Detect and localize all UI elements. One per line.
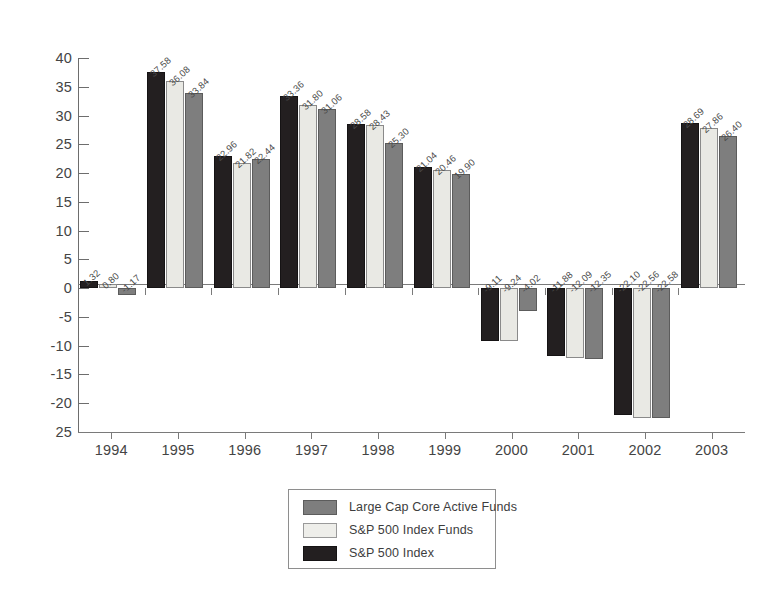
y-axis-tick-label: 25	[32, 425, 72, 440]
x-axis-tick-label: 2001	[543, 442, 613, 458]
zero-line-tick	[678, 288, 679, 295]
bar	[185, 93, 203, 288]
bar	[500, 288, 518, 341]
bar	[318, 109, 336, 288]
y-axis-tick-label: 40	[32, 51, 72, 66]
y-axis-tick	[78, 346, 89, 347]
zero-line-tick	[278, 288, 279, 295]
x-axis-tick-label: 1996	[210, 442, 280, 458]
y-axis-tick-label: 30	[32, 109, 72, 124]
bar	[633, 288, 651, 418]
zero-line-tick	[612, 288, 613, 295]
bar	[433, 170, 451, 288]
bar	[652, 288, 670, 418]
x-axis-tick	[178, 432, 179, 439]
x-axis-tick-label: 2002	[610, 442, 680, 458]
bar	[681, 123, 699, 288]
x-axis-tick-label: 2003	[677, 442, 747, 458]
y-axis-tick	[78, 231, 89, 232]
x-axis-tick	[111, 432, 112, 439]
bar-chart: 4035302520151050-5-10-15-2025 1.320.80-1…	[0, 0, 784, 616]
x-axis-tick-label: 1997	[276, 442, 346, 458]
y-axis-tick-label: 15	[32, 195, 72, 210]
bar	[547, 288, 565, 356]
y-axis-tick	[78, 173, 89, 174]
bar	[700, 128, 718, 288]
x-axis-tick	[712, 432, 713, 439]
y-axis-tick	[78, 374, 89, 375]
legend-swatch-icon-1	[303, 523, 337, 538]
x-axis-tick-label: 1994	[76, 442, 146, 458]
y-axis-tick-label: -10	[32, 339, 72, 354]
bar	[252, 159, 270, 288]
legend-label-1: S&P 500 Index Funds	[349, 522, 473, 539]
x-axis-tick	[445, 432, 446, 439]
zero-line-tick	[412, 288, 413, 295]
y-axis-line	[78, 58, 79, 432]
x-axis-tick-label: 1998	[343, 442, 413, 458]
bar	[233, 163, 251, 289]
bar	[585, 288, 603, 359]
bar	[414, 167, 432, 288]
bar	[347, 124, 365, 288]
y-axis-tick-label: -20	[32, 396, 72, 411]
bar	[481, 288, 499, 340]
y-axis-tick	[78, 116, 89, 117]
y-axis-tick	[78, 202, 89, 203]
y-axis-tick	[78, 144, 89, 145]
bar	[452, 174, 470, 289]
legend-label-0: Large Cap Core Active Funds	[349, 499, 517, 516]
x-axis-tick	[311, 432, 312, 439]
y-axis-tick-label: -5	[32, 310, 72, 325]
bar	[166, 81, 184, 289]
y-axis-tick	[78, 259, 89, 260]
zero-line-tick	[345, 288, 346, 295]
x-axis-tick-label: 1999	[410, 442, 480, 458]
x-axis-tick	[645, 432, 646, 439]
legend-label-2: S&P 500 Index	[349, 545, 434, 562]
x-axis-tick	[378, 432, 379, 439]
y-axis-tick-label: 20	[32, 166, 72, 181]
y-axis-tick	[78, 317, 89, 318]
zero-line-tick	[478, 288, 479, 295]
bar	[614, 288, 632, 415]
y-axis-tick-label: 5	[32, 252, 72, 267]
legend-swatch-icon-2	[303, 546, 337, 561]
zero-line-tick	[145, 288, 146, 295]
y-axis-tick-label: 0	[32, 281, 72, 296]
x-axis-tick	[578, 432, 579, 439]
bar	[566, 288, 584, 358]
y-axis-tick-label: 35	[32, 80, 72, 95]
y-axis-tick	[78, 58, 89, 59]
bar	[214, 156, 232, 288]
x-axis-tick	[245, 432, 246, 439]
y-axis-tick-label: -15	[32, 367, 72, 382]
bar	[719, 136, 737, 288]
x-axis-tick	[512, 432, 513, 439]
bar	[366, 125, 384, 289]
chart-legend: Large Cap Core Active Funds S&P 500 Inde…	[288, 489, 496, 569]
legend-swatch-icon-0	[303, 500, 337, 515]
x-axis-tick-label: 1995	[143, 442, 213, 458]
y-axis-tick	[78, 87, 89, 88]
bar	[280, 96, 298, 288]
bar	[299, 105, 317, 288]
y-axis-tick-label: 10	[32, 224, 72, 239]
bar	[147, 72, 165, 288]
x-axis-tick-label: 2000	[477, 442, 547, 458]
zero-line-tick	[545, 288, 546, 295]
y-axis-tick-label: 25	[32, 137, 72, 152]
zero-line-tick	[211, 288, 212, 295]
bar	[385, 143, 403, 289]
y-axis-tick	[78, 403, 89, 404]
